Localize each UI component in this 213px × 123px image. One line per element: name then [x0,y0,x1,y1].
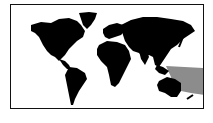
new-zealand [187,95,193,99]
north-america [31,18,85,61]
map-frame: World map [10,4,204,109]
south-america [65,67,87,105]
world-map [11,5,204,109]
asia [121,17,195,67]
africa [97,41,131,87]
india [139,51,149,65]
